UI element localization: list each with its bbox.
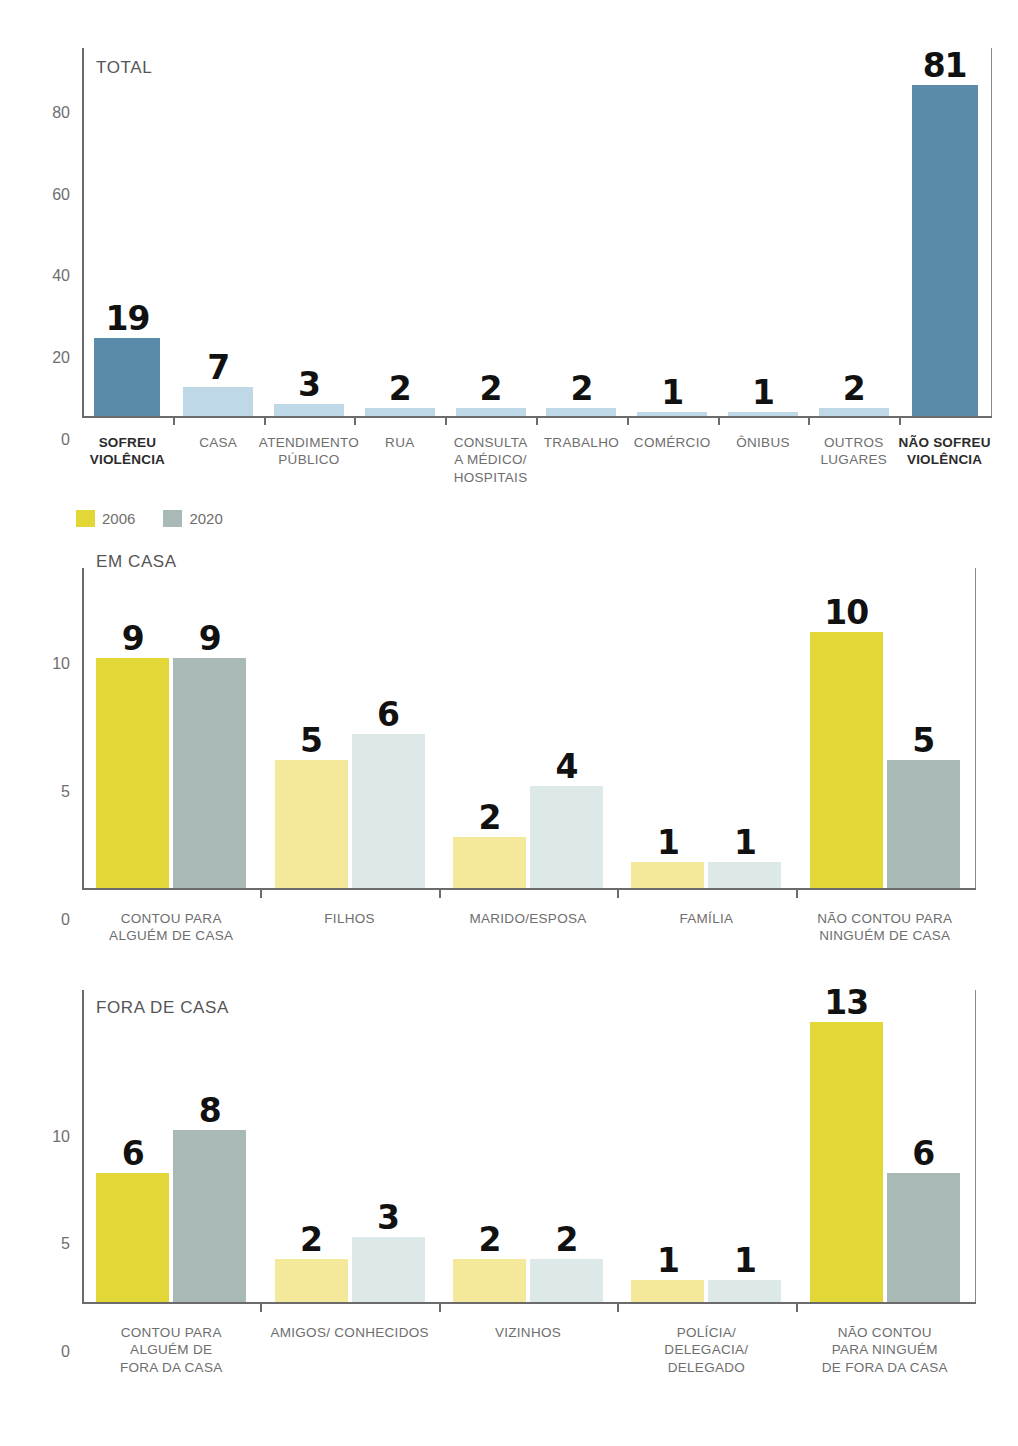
bar-value-label: 2 xyxy=(480,372,502,405)
plot-right-rule xyxy=(975,990,976,1302)
bar: 1 xyxy=(708,1280,781,1302)
legend-item-2020: 2020 xyxy=(163,510,222,527)
bar-value-label: 9 xyxy=(199,622,221,655)
bar: 2 xyxy=(275,1259,348,1302)
y-tick-label: 40 xyxy=(52,267,82,285)
bar: 3 xyxy=(274,404,344,416)
x-axis-label: MARIDO/ESPOSA xyxy=(429,910,627,927)
x-tickmark xyxy=(617,1302,619,1312)
bar-value-label: 1 xyxy=(752,376,774,409)
bar: 2 xyxy=(453,837,526,888)
y-tick-label: 10 xyxy=(52,655,82,673)
legend-item-2006: 2006 xyxy=(76,510,135,527)
bar-value-label: 1 xyxy=(657,1244,679,1277)
bar: 7 xyxy=(183,387,253,416)
x-axis-label: CONTOU PARAALGUÉM DE CASA xyxy=(72,910,270,945)
y-tick-label: 10 xyxy=(52,1128,82,1146)
bar-value-label: 4 xyxy=(556,750,578,783)
x-axis-label: CONTOU PARAALGUÉM DEFORA DA CASA xyxy=(72,1324,270,1376)
x-axis-label-line: A MÉDICO/ xyxy=(439,451,542,468)
x-tickmark xyxy=(264,416,266,425)
x-axis-label-line: VIOLÊNCIA xyxy=(76,451,179,468)
bar-value-label: 3 xyxy=(377,1201,399,1234)
x-tickmark xyxy=(445,416,447,425)
x-axis-label-line: CASA xyxy=(167,434,270,451)
bar: 10 xyxy=(810,632,883,888)
x-tickmark xyxy=(617,888,619,898)
x-axis-label-line: NINGUÉM DE CASA xyxy=(786,927,984,944)
x-axis-label-line: HOSPITAIS xyxy=(439,469,542,486)
x-tickmark xyxy=(796,888,798,898)
y-tick-label: 80 xyxy=(52,104,82,122)
x-tickmark xyxy=(808,416,810,425)
legend-label-2006: 2006 xyxy=(102,510,135,527)
x-axis-label-line: FILHOS xyxy=(250,910,448,927)
x-axis-label-line: DE FORA DA CASA xyxy=(786,1359,984,1376)
x-axis-label-line: AMIGOS/ CONHECIDOS xyxy=(250,1324,448,1341)
x-axis-label: NÃO SOFREUVIOLÊNCIA xyxy=(893,434,996,469)
bar: 5 xyxy=(887,760,960,888)
x-axis-label: ÔNIBUS xyxy=(712,434,815,451)
x-tickmark xyxy=(260,888,262,898)
y-axis-em-casa: 0510 xyxy=(12,600,82,920)
bar-value-label: 2 xyxy=(479,801,501,834)
x-axis-label: NÃO CONTOUPARA NINGUÉMDE FORA DA CASA xyxy=(786,1324,984,1376)
x-tickmark xyxy=(173,416,175,425)
bar-value-label: 1 xyxy=(657,826,679,859)
x-axis-label-line: COMÉRCIO xyxy=(621,434,724,451)
bar-value-label: 13 xyxy=(824,986,868,1019)
bar-value-label: 6 xyxy=(122,1137,144,1170)
x-tickmark xyxy=(796,1302,798,1312)
x-tickmark xyxy=(439,1302,441,1312)
x-axis-label-line: DELEGADO xyxy=(607,1359,805,1376)
bar: 5 xyxy=(275,760,348,888)
x-tickmark xyxy=(718,416,720,425)
bar-value-label: 6 xyxy=(377,698,399,731)
x-axis-label: SOFREUVIOLÊNCIA xyxy=(76,434,179,469)
x-axis-label-line: RUA xyxy=(348,434,451,451)
bar-value-label: 2 xyxy=(570,372,592,405)
bar-value-label: 6 xyxy=(912,1137,934,1170)
x-tickmark xyxy=(260,1302,262,1312)
bar: 3 xyxy=(352,1237,425,1302)
x-tickmark xyxy=(439,888,441,898)
bar: 81 xyxy=(912,85,978,416)
bar-value-label: 1 xyxy=(734,1244,756,1277)
y-axis-fora-de-casa: 0510 xyxy=(12,1040,82,1352)
bar: 9 xyxy=(96,658,169,888)
bar: 6 xyxy=(352,734,425,888)
x-axis-label: CASA xyxy=(167,434,270,451)
x-axis-label-line: ALGUÉM DE CASA xyxy=(72,927,270,944)
x-axis-label-line: SOFREU xyxy=(76,434,179,451)
x-tickmark xyxy=(899,416,901,425)
x-axis-label-line: NÃO CONTOU xyxy=(786,1324,984,1341)
bar: 2 xyxy=(819,408,889,416)
bar-value-label: 3 xyxy=(298,368,320,401)
x-axis-label-line: PARA NINGUÉM xyxy=(786,1341,984,1358)
bar: 2 xyxy=(365,408,435,416)
x-axis-label-line: CONTOU PARA xyxy=(72,1324,270,1341)
bar-value-label: 2 xyxy=(556,1223,578,1256)
x-axis-label-line: DELEGACIA/ xyxy=(607,1341,805,1358)
x-axis-label: ATENDIMENTOPÚBLICO xyxy=(258,434,361,469)
x-axis-label-line: OUTROS xyxy=(802,434,905,451)
bar: 1 xyxy=(631,862,704,888)
x-axis-label-line: NÃO CONTOU PARA xyxy=(786,910,984,927)
bar: 6 xyxy=(96,1173,169,1302)
x-axis-label-line: TRABALHO xyxy=(530,434,633,451)
bar: 8 xyxy=(173,1130,246,1302)
x-axis-label: CONSULTAA MÉDICO/HOSPITAIS xyxy=(439,434,542,486)
bar: 2 xyxy=(530,1259,603,1302)
legend-swatch-2020 xyxy=(163,510,182,527)
bar-value-label: 19 xyxy=(105,302,149,335)
bar: 4 xyxy=(530,786,603,888)
bar-value-label: 81 xyxy=(923,49,967,82)
bar-value-label: 9 xyxy=(122,622,144,655)
y-axis-total: 020406080 xyxy=(12,72,82,440)
bar-value-label: 2 xyxy=(843,372,865,405)
x-axis-label-line: CONTOU PARA xyxy=(72,910,270,927)
bar: 19 xyxy=(94,338,160,416)
x-axis-label-line: PÚBLICO xyxy=(258,451,361,468)
y-tick-label: 60 xyxy=(52,186,82,204)
bar: 2 xyxy=(453,1259,526,1302)
